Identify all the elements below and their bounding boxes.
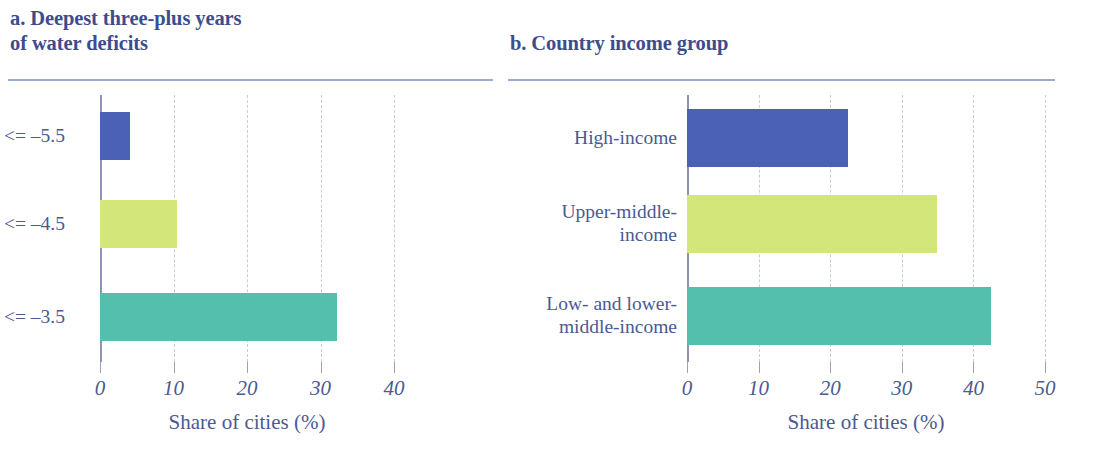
x-tick-label: 0: [95, 376, 106, 401]
x-tick-mark: [687, 362, 688, 373]
panel-a-plot-area: <= –5.5<= –4.5<= –3.5 010203040Share of …: [100, 95, 394, 362]
x-tick-label: 0: [682, 376, 693, 401]
gridline: [1045, 95, 1046, 362]
gridline: [394, 95, 395, 362]
x-tick-mark: [247, 362, 248, 373]
bar[interactable]: [687, 109, 848, 167]
x-tick-mark: [1045, 362, 1046, 373]
panel-b-title: b. Country income group: [508, 0, 1118, 56]
category-label: High-income: [507, 126, 677, 149]
bar-row: [687, 109, 1045, 167]
x-tick-label: 20: [820, 376, 841, 401]
x-tick-mark: [902, 362, 903, 373]
x-tick-mark: [100, 362, 101, 373]
category-label: <= –4.5: [4, 212, 90, 235]
x-tick-label: 10: [748, 376, 769, 401]
x-tick-mark: [174, 362, 175, 373]
bar-row: [100, 293, 394, 341]
x-tick-label: 20: [237, 376, 258, 401]
bar[interactable]: [100, 293, 337, 341]
x-tick-mark: [394, 362, 395, 373]
bar-row: [687, 195, 1045, 253]
category-label: <= –5.5: [4, 124, 90, 147]
x-tick-label: 40: [963, 376, 984, 401]
x-tick-label: 30: [310, 376, 331, 401]
x-axis-caption: Share of cities (%): [169, 410, 326, 435]
x-tick-mark: [321, 362, 322, 373]
x-tick-mark: [973, 362, 974, 373]
bar[interactable]: [687, 195, 937, 253]
bar-row: [100, 200, 394, 248]
x-tick-label: 50: [1035, 376, 1056, 401]
bar-row: [100, 112, 394, 160]
panel-b-title-rule: [508, 79, 1055, 81]
panel-a-title-rule: [8, 79, 493, 81]
panel-a: a. Deepest three-plus years of water def…: [0, 0, 500, 449]
panel-b: b. Country income group High-incomeUpper…: [500, 0, 1118, 449]
bar[interactable]: [100, 112, 130, 160]
x-tick-label: 30: [891, 376, 912, 401]
figure-two-panel-bar-charts: a. Deepest three-plus years of water def…: [0, 0, 1118, 449]
panel-a-bars: <= –5.5<= –4.5<= –3.5: [100, 95, 394, 362]
x-tick-mark: [830, 362, 831, 373]
bar[interactable]: [100, 200, 177, 248]
bar-row: [687, 287, 1045, 345]
x-tick-label: 10: [163, 376, 184, 401]
x-tick-mark: [759, 362, 760, 373]
bar[interactable]: [687, 287, 991, 345]
panel-b-plot-area: High-incomeUpper-middle- incomeLow- and …: [687, 95, 1045, 362]
x-tick-label: 40: [384, 376, 405, 401]
panel-a-title: a. Deepest three-plus years of water def…: [8, 0, 500, 56]
category-label: Low- and lower- middle-income: [507, 292, 677, 338]
x-axis-caption: Share of cities (%): [788, 410, 945, 435]
panel-b-bars: High-incomeUpper-middle- incomeLow- and …: [687, 95, 1045, 362]
category-label: <= –3.5: [4, 305, 90, 328]
category-label: Upper-middle- income: [507, 200, 677, 246]
